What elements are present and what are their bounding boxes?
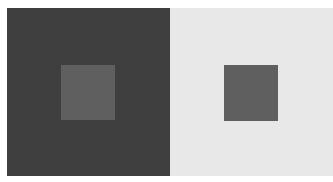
gray-inner-square-right: [224, 65, 278, 121]
gray-inner-square-left: [61, 65, 115, 120]
light-surround-square: [170, 8, 333, 176]
dark-surround-square: [7, 8, 170, 176]
